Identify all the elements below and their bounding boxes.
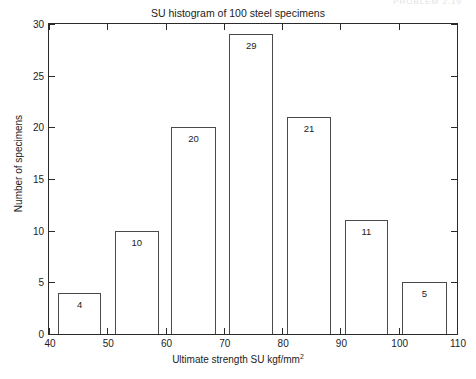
x-axis-tick-mirror	[107, 24, 108, 30]
x-axis-tick-label: 60	[153, 338, 181, 349]
histogram-bar: 10	[115, 231, 159, 334]
x-axis-tick-mirror	[49, 24, 50, 30]
x-axis-label-text: Ultimate strength SU kgf/mm	[172, 354, 300, 365]
y-axis-tick-label: 10	[33, 226, 44, 237]
y-axis-tick: 20	[49, 127, 55, 128]
bar-value-label: 5	[403, 289, 445, 299]
bar-value-label: 29	[230, 41, 272, 51]
x-axis-tick-mirror	[282, 24, 283, 30]
x-axis-tick-label: 80	[269, 338, 297, 349]
bar-value-label: 11	[346, 227, 388, 237]
y-axis-label: Number of specimens	[13, 84, 24, 244]
x-axis-tick: 40	[49, 328, 50, 334]
histogram-bar: 5	[402, 282, 446, 334]
x-axis-tick-label: 90	[327, 338, 355, 349]
y-axis-tick-mirror	[451, 231, 457, 232]
x-axis-tick-mirror	[399, 24, 400, 30]
bar-value-label: 10	[116, 238, 158, 248]
y-axis-tick: 5	[49, 282, 55, 283]
x-axis-tick-label: 50	[94, 338, 122, 349]
histogram-bar: 21	[287, 117, 331, 334]
histogram-figure: PROBLEM 2.19 SU histogram of 100 steel s…	[0, 0, 476, 379]
histogram-bar: 29	[229, 34, 273, 334]
x-axis-tick: 100	[399, 328, 400, 334]
y-axis-tick-mirror	[451, 282, 457, 283]
x-axis-tick-mirror	[166, 24, 167, 30]
y-axis-tick: 25	[49, 76, 55, 77]
y-axis-tick-mirror	[451, 334, 457, 335]
histogram-bar: 11	[345, 220, 389, 334]
y-axis-tick-mirror	[451, 76, 457, 77]
y-axis-tick-label: 25	[33, 71, 44, 82]
y-axis-tick-mirror	[451, 127, 457, 128]
page-running-header: PROBLEM 2.19	[393, 0, 462, 6]
x-axis-tick: 60	[166, 328, 167, 334]
y-axis-tick: 15	[49, 179, 55, 180]
y-axis-tick: 10	[49, 231, 55, 232]
chart-title: SU histogram of 100 steel specimens	[0, 7, 476, 19]
x-axis-tick-mirror	[457, 24, 458, 30]
histogram-bar: 4	[58, 293, 102, 334]
bar-value-label: 4	[59, 300, 101, 310]
x-axis-tick-mirror	[224, 24, 225, 30]
plot-area: 4102029211150510152025304050607080901001…	[48, 23, 458, 335]
y-axis-tick-label: 15	[33, 174, 44, 185]
bar-value-label: 20	[172, 134, 214, 144]
y-axis-tick-label: 20	[33, 122, 44, 133]
y-axis-tick-label: 30	[33, 19, 44, 30]
bar-value-label: 21	[288, 124, 330, 134]
x-axis-tick-label: 70	[211, 338, 239, 349]
x-axis-label-exponent: 2	[300, 353, 304, 360]
x-axis-tick: 90	[340, 328, 341, 334]
x-axis-tick: 70	[224, 328, 225, 334]
x-axis-tick: 80	[282, 328, 283, 334]
x-axis-tick-mirror	[340, 24, 341, 30]
y-axis-tick: 0	[49, 334, 55, 335]
y-axis-tick-mirror	[451, 179, 457, 180]
x-axis-tick: 50	[107, 328, 108, 334]
x-axis-tick-label: 100	[386, 338, 414, 349]
x-axis-tick-label: 40	[36, 338, 64, 349]
x-axis-tick: 110	[457, 328, 458, 334]
x-axis-tick-label: 110	[444, 338, 472, 349]
x-axis-label: Ultimate strength SU kgf/mm2	[0, 354, 476, 365]
y-axis-tick-label: 5	[38, 277, 44, 288]
histogram-bar: 20	[171, 127, 215, 334]
